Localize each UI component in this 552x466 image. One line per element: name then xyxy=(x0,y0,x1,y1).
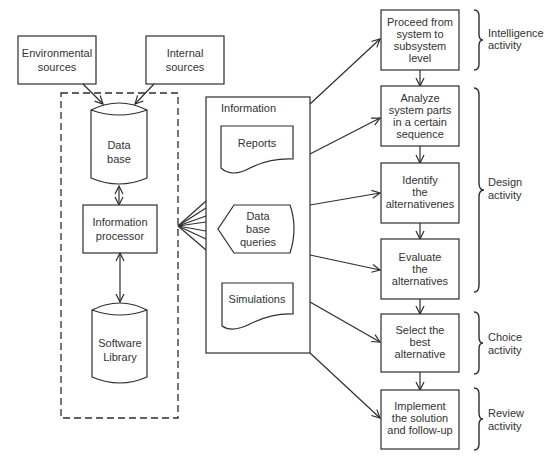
queries-label-3: queries xyxy=(240,236,277,248)
step-4-line-3: alternatives xyxy=(392,275,449,287)
step-2-line-3: in a certain xyxy=(393,116,447,128)
step-select-best-alternative: Select the best alternative xyxy=(381,314,459,372)
arrow-internal-to-database xyxy=(135,84,154,104)
step-4-line-1: Evaluate xyxy=(399,251,442,263)
database-queries-display: Data base queries xyxy=(218,205,294,253)
processor-label-2: processor xyxy=(96,230,145,242)
review-label-1: Review xyxy=(488,407,524,419)
step-6-line-1: Implement xyxy=(394,400,445,412)
intelligence-label-1: Intelligence xyxy=(488,27,544,39)
design-activity-group: Design activity xyxy=(474,88,522,292)
choice-label-1: Choice xyxy=(488,331,522,343)
brace-icon xyxy=(474,10,483,70)
internal-sources-box: Internal sources xyxy=(146,36,224,84)
step-evaluate-alternatives: Evaluate the alternatives xyxy=(381,239,459,299)
information-processor-box: Information processor xyxy=(83,205,157,253)
design-label-1: Design xyxy=(488,176,522,188)
simulations-label: Simulations xyxy=(229,293,286,305)
step-identify-alternatives: Identify the alternativenes xyxy=(381,163,459,223)
processor-to-information-fan xyxy=(178,201,206,250)
step-6-line-3: and follow-up xyxy=(387,424,452,436)
step-5-line-1: Select the xyxy=(396,324,445,336)
software-library-label-1: Software xyxy=(98,337,141,349)
step-2-line-2: system parts xyxy=(389,104,452,116)
environmental-sources-label-2: sources xyxy=(38,61,77,73)
step-5-line-3: alternative xyxy=(395,348,446,360)
step-1-line-2: system to xyxy=(396,28,443,40)
information-title: Information xyxy=(221,102,276,114)
intelligence-activity-group: Intelligence activity xyxy=(474,10,544,70)
brace-icon xyxy=(474,388,483,450)
database-cylinder: Data base xyxy=(91,103,147,184)
choice-label-2: activity xyxy=(488,344,522,356)
step-1-line-3: subsystem xyxy=(394,40,447,52)
queries-label-1: Data xyxy=(246,210,270,222)
step-implement-solution: Implement the solution and follow-up xyxy=(381,390,459,449)
review-label-2: activity xyxy=(488,420,522,432)
step-1-line-4: level xyxy=(409,52,432,64)
step-3-line-3: alternativenes xyxy=(386,198,455,210)
choice-activity-group: Choice activity xyxy=(474,312,522,374)
environmental-sources-box: Environmental sources xyxy=(18,36,96,84)
intelligence-label-2: activity xyxy=(488,39,522,51)
brace-icon xyxy=(474,88,484,292)
dss-decision-process-diagram: Environmental sources Internal sources D… xyxy=(0,0,552,466)
review-activity-group: Review activity xyxy=(474,388,524,450)
arrow-environmental-to-database xyxy=(83,84,103,104)
software-library-cylinder: Software Library xyxy=(92,303,147,383)
database-label-2: base xyxy=(107,153,131,165)
step-6-line-2: the solution xyxy=(392,412,448,424)
step-1-line-1: Proceed from xyxy=(387,16,453,28)
reports-label: Reports xyxy=(238,137,277,149)
step-2-line-1: Analyze xyxy=(400,92,439,104)
internal-sources-label-1: Internal xyxy=(167,47,204,59)
environmental-sources-label-1: Environmental xyxy=(22,47,92,59)
brace-icon xyxy=(474,312,483,374)
processor-label-1: Information xyxy=(92,216,147,228)
step-3-line-1: Identify xyxy=(402,174,438,186)
step-2-line-4: sequence xyxy=(396,128,444,140)
step-4-line-2: the xyxy=(412,263,427,275)
internal-sources-label-2: sources xyxy=(166,61,205,73)
step-3-line-2: the xyxy=(412,186,427,198)
step-5-line-2: best xyxy=(410,336,431,348)
design-label-2: activity xyxy=(488,189,522,201)
queries-label-2: base xyxy=(246,223,270,235)
step-analyze-system-parts: Analyze system parts in a certain sequen… xyxy=(381,86,459,146)
information-to-steps-arrows xyxy=(310,39,380,418)
software-library-label-2: Library xyxy=(103,351,137,363)
database-label-1: Data xyxy=(107,139,131,151)
step-proceed-system: Proceed from system to subsystem level xyxy=(381,10,459,70)
